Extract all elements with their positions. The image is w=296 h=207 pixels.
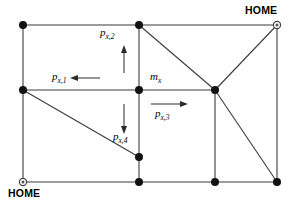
home-label-top-right: HOME	[245, 5, 277, 16]
label-px4: px,4	[113, 131, 127, 142]
node-group	[19, 21, 281, 186]
label-mx-sub: x	[158, 76, 161, 85]
node-bottom-mid	[135, 178, 143, 186]
label-px3: px,3	[155, 108, 169, 119]
label-px3-sub: x,3	[161, 113, 170, 122]
arrow-px3-head	[180, 101, 188, 107]
node-top-mid	[135, 21, 143, 29]
arrow-px1-head	[70, 75, 78, 81]
node-lower-mid	[135, 153, 143, 161]
edge-diagonal-center-right-to-bottom-right	[215, 90, 277, 182]
node-bottom-right	[273, 178, 281, 186]
node-bottom-right-inner	[211, 178, 219, 186]
mesh-diagram: HOME HOME px,2 px,1 mx px,3 px,4	[0, 0, 296, 207]
label-px2-base: p	[100, 26, 106, 38]
label-px2: px,2	[100, 27, 114, 38]
label-mx: mx	[150, 71, 161, 82]
arrow-px4-down	[121, 104, 127, 134]
arrow-px2-up	[121, 45, 127, 73]
node-top-left	[19, 21, 27, 29]
home-label-bottom-left-text: HOME	[8, 187, 40, 199]
label-px3-base: p	[155, 107, 161, 119]
node-center	[135, 86, 143, 94]
label-px4-base: p	[113, 130, 119, 142]
node-mid-left	[19, 86, 27, 94]
home-node-group	[19, 21, 280, 185]
label-px1-sub: x,1	[58, 76, 67, 85]
arrow-px2-head	[121, 45, 127, 53]
edge-diagonal-mid-left-to-lower-mid	[23, 90, 139, 157]
edge-diagonal-center-right-to-home	[215, 25, 277, 90]
home-label-bottom-left: HOME	[8, 188, 40, 199]
node-mid-right	[211, 86, 219, 94]
mesh-svg-canvas	[0, 0, 296, 207]
home-node-top-right-marker	[273, 21, 280, 28]
home-ring-inner-top-right	[276, 24, 279, 27]
arrow-px1-left	[70, 75, 100, 81]
label-px2-sub: x,2	[106, 32, 115, 41]
label-px4-sub: x,4	[119, 136, 128, 145]
home-label-top-right-text: HOME	[245, 4, 277, 16]
label-px1-base: p	[52, 70, 58, 82]
home-ring-inner-bottom-left	[22, 181, 25, 184]
label-mx-base: m	[150, 70, 158, 82]
label-px1: px,1	[52, 71, 66, 82]
edge-group	[23, 25, 277, 182]
home-node-bottom-left-marker	[19, 178, 26, 185]
